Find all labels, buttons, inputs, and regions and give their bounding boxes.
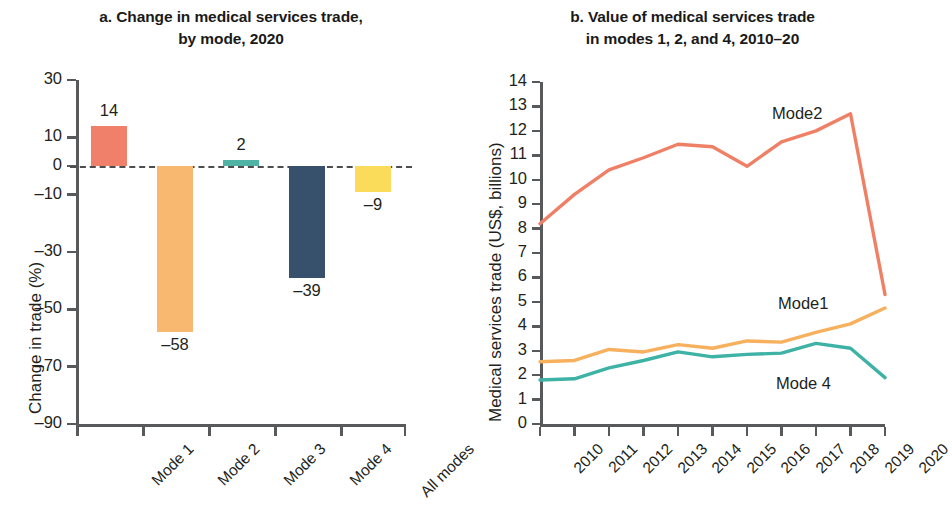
panel-b-y-tick-label: 5 bbox=[518, 291, 527, 310]
panel-a-y-tick-label: –10 bbox=[34, 184, 62, 203]
panel-b-x-tick-label: 2012 bbox=[639, 440, 676, 477]
panel-a-y-tick-label: 30 bbox=[44, 69, 62, 88]
panel-b-y-tick-label: 10 bbox=[509, 169, 527, 188]
panel-b-y-tick bbox=[532, 130, 540, 133]
panel-a-y-tick bbox=[67, 308, 76, 311]
panel-a-y-tick bbox=[67, 365, 76, 368]
panel-b-y-tick-label: 7 bbox=[518, 242, 527, 261]
panel-a-x-tick bbox=[340, 427, 343, 436]
panel-b-title-line1: b. Value of medical services trade bbox=[462, 6, 923, 28]
panel-a-bar-value: –39 bbox=[267, 281, 347, 300]
panel-a-x-tick bbox=[76, 427, 79, 436]
panel-b-y-tick bbox=[532, 252, 540, 255]
panel-b-y-tick bbox=[532, 203, 540, 206]
panel-a-y-axis-label: Change in trade (%) bbox=[26, 262, 46, 414]
panel-a-y-tick bbox=[67, 79, 76, 82]
panel-b-series-label: Mode2 bbox=[772, 104, 822, 123]
panel-b-x-tick bbox=[677, 427, 680, 436]
panel-a-bar bbox=[157, 166, 193, 332]
panel-a-y-tick bbox=[67, 136, 76, 139]
panel-a-x-tick bbox=[142, 427, 145, 436]
panel-a-y-tick-label: 10 bbox=[44, 126, 62, 145]
panel-a-y-tick bbox=[67, 251, 76, 254]
panel-a-x-tick bbox=[404, 427, 407, 436]
panel-b-y-tick bbox=[532, 374, 540, 377]
panel-b-y-tick bbox=[532, 81, 540, 84]
panel-b-y-tick-label: 12 bbox=[509, 120, 527, 139]
panel-b-series-lines bbox=[540, 82, 885, 424]
panel-b-x-tick-label: 2015 bbox=[743, 440, 780, 477]
panel-b-x-tick bbox=[711, 427, 714, 436]
panel-b-x-tick bbox=[780, 427, 783, 436]
panel-b-x-tick-label: 2011 bbox=[604, 440, 640, 476]
panel-b-y-tick bbox=[532, 398, 540, 401]
panel-b-y-tick bbox=[532, 325, 540, 328]
panel-a-bar bbox=[355, 166, 391, 192]
panel-b-y-tick bbox=[532, 276, 540, 279]
panel-b-x-tick-label: 2017 bbox=[812, 440, 849, 477]
panel-b-line-mode1 bbox=[540, 308, 885, 362]
panel-a-title: a. Change in medical services trade, by … bbox=[0, 6, 462, 50]
panel-b-y-tick bbox=[532, 105, 540, 108]
panel-a-bar bbox=[223, 160, 259, 166]
panel-b-x-tick bbox=[884, 427, 887, 436]
panel-b-y-tick bbox=[532, 301, 540, 304]
panel-a-bar-value: –9 bbox=[333, 195, 413, 214]
panel-a-x-tick-label: Mode 1 bbox=[148, 440, 197, 489]
panel-b-x-tick bbox=[539, 427, 542, 436]
panel-b-y-tick-label: 11 bbox=[510, 144, 527, 163]
panel-a-x-tick bbox=[274, 427, 277, 436]
panel-b-y-tick-label: 0 bbox=[518, 413, 527, 432]
panel-b-series-label: Mode 4 bbox=[776, 374, 831, 393]
panel-b-x-tick-label: 2020 bbox=[915, 440, 952, 477]
panel-b-x-tick bbox=[849, 427, 852, 436]
panel-b-y-tick-label: 6 bbox=[518, 266, 527, 285]
panel-b-plot-area: 01234567891011121314 Mode2Mode1Mode 4 20… bbox=[540, 82, 885, 424]
panel-b-y-tick bbox=[532, 179, 540, 182]
panel-b-y-tick-label: 9 bbox=[518, 193, 527, 212]
panel-a-x-axis bbox=[76, 424, 406, 427]
panel-a-y-tick bbox=[67, 193, 76, 196]
panel-b-title-line2: in modes 1, 2, and 4, 2010–20 bbox=[462, 28, 923, 50]
panel-a-bar-value: 2 bbox=[201, 135, 281, 154]
panel-b-y-tick bbox=[532, 350, 540, 353]
panel-b-line-mode2 bbox=[540, 114, 885, 295]
panel-a-y-tick-label: –50 bbox=[34, 298, 62, 317]
panel-a-title-line2: by mode, 2020 bbox=[0, 28, 462, 50]
panel-b-x-tick bbox=[746, 427, 749, 436]
panel-b-x-tick-label: 2010 bbox=[570, 440, 607, 477]
panel-b-x-tick bbox=[815, 427, 818, 436]
panel-b-y-tick-label: 8 bbox=[518, 218, 527, 237]
panel-a-y-axis bbox=[76, 80, 79, 424]
panel-b-series-label: Mode1 bbox=[778, 294, 828, 313]
panel-a-y-tick bbox=[67, 423, 76, 426]
panel-b-y-axis-label: Medical services trade (US$, billions) bbox=[486, 142, 506, 422]
panel-b-x-tick-label: 2013 bbox=[674, 440, 711, 477]
panel-a-bar-value: 14 bbox=[69, 101, 149, 120]
panel-b-x-tick bbox=[642, 427, 645, 436]
panel-b-y-tick bbox=[532, 423, 540, 426]
panel-b-y-tick bbox=[532, 154, 540, 157]
panel-b-x-tick-label: 2016 bbox=[777, 440, 814, 477]
panel-b-x-tick bbox=[573, 427, 576, 436]
panel-b-x-tick-label: 2018 bbox=[846, 440, 883, 477]
panel-b-y-tick-label: 1 bbox=[518, 389, 527, 408]
panel-a-bar-value: –58 bbox=[135, 335, 215, 354]
panel-a-y-tick-label: 0 bbox=[53, 155, 62, 174]
panel-a-bar-chart: a. Change in medical services trade, by … bbox=[0, 0, 462, 520]
panel-a-bar bbox=[289, 166, 325, 278]
panel-b-y-tick-label: 4 bbox=[518, 315, 527, 334]
panel-a-y-tick-label: –30 bbox=[34, 241, 62, 260]
panel-a-x-tick-label: Mode 3 bbox=[280, 440, 329, 489]
panel-b-x-tick-label: 2019 bbox=[881, 440, 918, 477]
panel-b-y-tick-label: 3 bbox=[518, 340, 527, 359]
panel-a-y-tick-label: –90 bbox=[34, 413, 62, 432]
panel-a-title-line1: a. Change in medical services trade, bbox=[0, 6, 462, 28]
panel-a-x-tick-label: Mode 2 bbox=[214, 440, 263, 489]
panel-a-y-tick-label: –70 bbox=[34, 356, 62, 375]
panel-a-bar bbox=[91, 126, 127, 166]
panel-b-y-tick-label: 13 bbox=[509, 95, 527, 114]
panel-b-line-chart: b. Value of medical services trade in mo… bbox=[462, 0, 923, 520]
panel-a-plot-area: 30100–10–30–50–70–90 14–582–39–9 Mode 1M… bbox=[76, 80, 406, 424]
